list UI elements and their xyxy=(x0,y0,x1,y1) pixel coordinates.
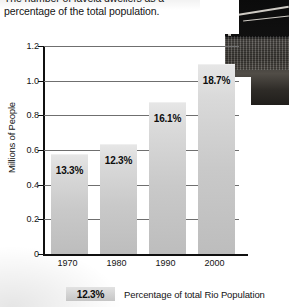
bar-chart: Millions of People 00.20.40.60.81.01.2 1… xyxy=(0,36,289,276)
bar-series: 13.3%12.3%16.1%18.7% xyxy=(45,46,241,254)
y-axis-tick-label: 1.0 xyxy=(9,76,39,86)
x-axis-tick-label: 2000 xyxy=(190,258,239,268)
bar-value-label: 12.3% xyxy=(100,155,137,166)
caption-line-1-text: The number of favela dwellers as a xyxy=(4,0,164,5)
caption-line-2: percentage of the total population. xyxy=(4,5,209,18)
bar: 16.1% xyxy=(149,102,186,254)
photograph-corner-mask xyxy=(225,0,239,34)
bar: 18.7% xyxy=(198,64,235,254)
chart-legend: 12.3% Percentage of total Rio Population xyxy=(66,287,265,301)
y-axis-tick-label: 0.6 xyxy=(9,145,39,155)
y-axis-tick-label: 0.4 xyxy=(9,180,39,190)
x-axis-tick-label: 1980 xyxy=(92,258,141,268)
x-axis-tick-label: 1970 xyxy=(43,258,92,268)
legend-swatch: 12.3% xyxy=(66,287,115,301)
caption-block: The number of favela dwellers as a perce… xyxy=(4,0,209,18)
x-axis-line xyxy=(43,254,248,256)
bar-value-label: 13.3% xyxy=(51,165,88,176)
y-axis-tick-label: 1.2 xyxy=(9,41,39,51)
y-axis-tick-label: 0 xyxy=(9,249,39,259)
plot-area: 00.20.40.60.81.01.2 13.3%12.3%16.1%18.7%… xyxy=(43,46,239,254)
bar: 12.3% xyxy=(100,144,137,254)
page-root: The number of favela dwellers as a perce… xyxy=(0,0,289,307)
bar-value-label: 18.7% xyxy=(198,75,235,86)
bar-value-label: 16.1% xyxy=(149,113,186,124)
y-axis-tick-label: 0.8 xyxy=(9,110,39,120)
y-axis-tick-label: 0.2 xyxy=(9,214,39,224)
legend-description: Percentage of total Rio Population xyxy=(124,289,265,300)
x-axis-tick-label: 1990 xyxy=(141,258,190,268)
caption-line-1: The number of favela dwellers as a xyxy=(4,0,209,5)
bar: 13.3% xyxy=(51,154,88,254)
